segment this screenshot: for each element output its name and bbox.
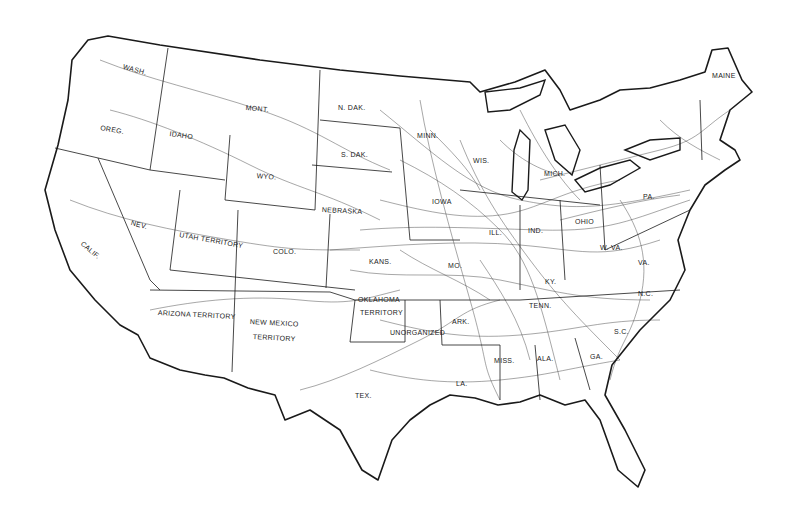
state-label-oklahoma1: OKLAHOMA — [358, 296, 400, 303]
state-label-la: LA. — [456, 380, 467, 387]
state-label-ark: ARK. — [452, 318, 470, 325]
state-label-unorganized: UNORGANIZED — [390, 329, 445, 336]
state-label-pa: PA. — [643, 193, 655, 200]
state-label-va: VA. — [638, 259, 650, 266]
state-label-maine: MAINE — [712, 72, 736, 79]
railroad-map — [0, 0, 801, 528]
state-label-ala: ALA. — [537, 355, 553, 362]
state-label-minn: MINN. — [417, 132, 438, 139]
state-label-ndak: N. DAK. — [338, 104, 365, 111]
great-lakes — [485, 80, 680, 200]
state-label-tex: TEX. — [355, 392, 372, 399]
state-label-mo: MO. — [448, 262, 462, 269]
state-label-ind: IND. — [528, 227, 543, 234]
state-label-ohio: OHIO — [575, 218, 594, 225]
state-label-sc: S.C. — [614, 328, 629, 335]
state-label-wis: WIS. — [473, 157, 489, 164]
state-label-oklahoma2: TERRITORY — [360, 309, 403, 316]
state-label-nc: N.C. — [638, 290, 653, 297]
state-label-colo: COLO. — [273, 248, 296, 255]
state-label-sdak: S. DAK. — [341, 151, 368, 158]
state-label-kans: KANS. — [369, 258, 392, 265]
state-label-tenn: TENN. — [529, 302, 552, 309]
railroad-lines — [70, 60, 730, 400]
state-label-mich: MICH. — [544, 170, 565, 177]
state-borders — [55, 48, 702, 400]
state-label-miss: MISS. — [494, 357, 515, 364]
state-label-ga: GA. — [590, 353, 603, 360]
state-label-iowa: IOWA — [432, 198, 452, 205]
state-label-wva: W. VA. — [600, 244, 623, 251]
state-label-ill: ILL. — [489, 229, 502, 236]
state-label-ky: KY. — [545, 278, 556, 285]
